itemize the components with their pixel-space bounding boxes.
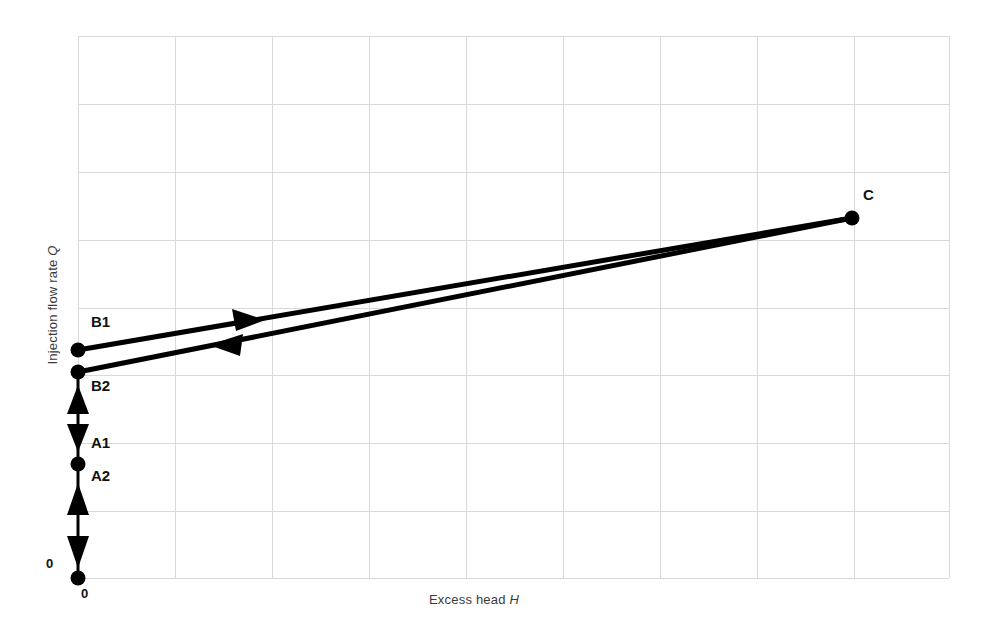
y-axis-origin-tick-label: 0: [46, 556, 53, 571]
point-a1-a2: [71, 457, 86, 472]
x-axis-title-symbol: H: [509, 592, 519, 607]
point-label-a1: A1: [91, 434, 110, 451]
x-axis-title-text: Excess head: [429, 592, 509, 607]
arrowhead-down: [67, 424, 89, 452]
y-axis-title-text: Injection flow rate: [45, 256, 60, 365]
y-axis-title-symbol: Q: [45, 245, 60, 255]
data-points: [71, 211, 860, 586]
point-label-b1: B1: [91, 313, 110, 330]
x-axis-origin-tick-label: 0: [81, 586, 88, 601]
arrowhead-up: [67, 483, 89, 515]
unloading-path-c-to-b2: [78, 218, 852, 372]
arrowhead-up: [67, 385, 89, 414]
vertical-jump-b2-to-a: [67, 374, 89, 462]
x-axis-title: Excess head H: [429, 592, 519, 607]
vertical-jump-origin-to-a: [67, 466, 89, 576]
y-axis-title: Injection flow rate Q: [45, 245, 60, 364]
arrowhead-forward: [232, 309, 265, 331]
point-b1: [71, 343, 86, 358]
point-origin: [71, 571, 86, 586]
point-label-b2: B2: [91, 377, 110, 394]
point-label-a2: A2: [91, 467, 110, 484]
point-b2: [71, 365, 86, 380]
point-c: [845, 211, 860, 226]
diagram-plot-area: [0, 0, 982, 636]
point-label-c: C: [863, 186, 874, 203]
figure-canvas: B1 B2 A1 A2 C 0 0 Excess head H Injectio…: [0, 0, 982, 636]
arrowhead-reverse: [209, 334, 243, 356]
grid-lines: [78, 36, 949, 578]
loading-path-b1-to-c: [78, 218, 852, 350]
arrowhead-down: [67, 536, 89, 568]
